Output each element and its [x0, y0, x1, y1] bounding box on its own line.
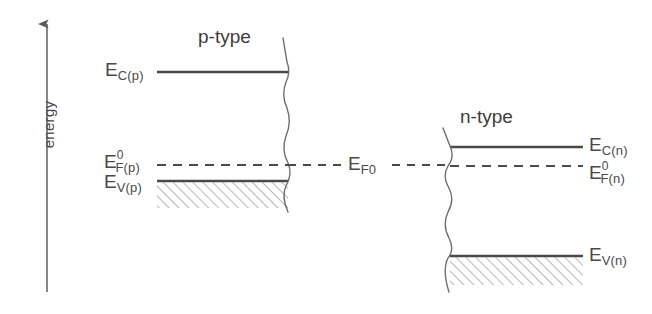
- label-ev-n: EV(n): [589, 245, 627, 264]
- label-ev-p-subscript: V(p): [117, 180, 142, 195]
- energy-band-diagram: energy p-type n-type EC(p) E0F(p) EV(p) …: [0, 0, 652, 314]
- band-diagram-canvas: [0, 0, 652, 314]
- energy-axis-label: energy: [40, 85, 57, 165]
- valence-band-hatch-p: [157, 182, 288, 208]
- label-ec-n-subscript: C(n): [602, 143, 628, 158]
- label-ec-p-subscript: C(p): [118, 68, 144, 83]
- n-type-region: [443, 128, 583, 292]
- label-ef0-n: E0F(n): [589, 163, 625, 182]
- label-ef0-common: EF0: [348, 154, 376, 173]
- label-ev-n-subscript: V(n): [602, 253, 627, 268]
- label-ec-p-base: E: [105, 59, 118, 80]
- label-ev-p: EV(p): [104, 172, 142, 191]
- label-ev-p-base: E: [104, 171, 117, 192]
- n-type-title: n-type: [460, 106, 513, 128]
- label-ef0-p: E0F(p): [104, 152, 140, 171]
- label-ec-n-base: E: [589, 134, 602, 155]
- label-ef0-common-base: E: [348, 153, 361, 174]
- valence-band-hatch-n: [450, 257, 583, 285]
- label-ef0-common-subscript: F0: [361, 162, 377, 177]
- p-type-title: p-type: [198, 26, 251, 48]
- label-ec-n: EC(n): [589, 135, 628, 154]
- p-type-region: [157, 38, 290, 212]
- label-ev-n-base: E: [589, 244, 602, 265]
- label-ec-p: EC(p): [105, 60, 144, 79]
- label-ef0-n-subscript: F(n): [600, 171, 625, 186]
